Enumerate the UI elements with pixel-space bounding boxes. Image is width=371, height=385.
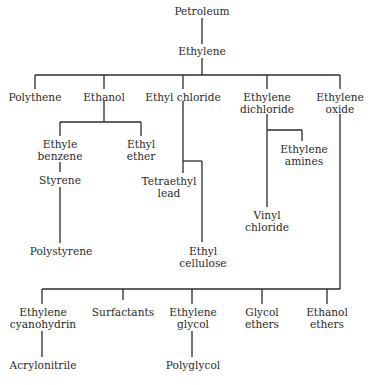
node-glycol-ethers: Glycol ethers [245, 306, 279, 330]
node-ethylene: Ethylene [178, 45, 226, 57]
node-ethylene-glycol: Ethylene glycol [169, 306, 217, 330]
node-styrene: Styrene [39, 174, 81, 186]
node-label: Ethyl chloride [145, 91, 221, 103]
node-label-line1: Ethylene [240, 91, 294, 103]
node-label: Polythene [9, 91, 62, 103]
node-label-line2: amines [280, 155, 328, 167]
node-label-line2: cellulose [179, 257, 226, 269]
node-label-line2: chloride [245, 221, 289, 233]
node-label-line2: cyanohydrin [10, 318, 76, 330]
node-ethylene-dichloride: Ethylene dichloride [240, 91, 294, 115]
node-label: Surfactants [92, 306, 154, 318]
node-polythene: Polythene [9, 91, 62, 103]
node-ethanol-ethers: Ethanol ethers [306, 306, 348, 330]
node-ethylene-cyanohydrin: Ethylene cyanohydrin [10, 306, 76, 330]
node-label: Polyglycol [166, 359, 220, 371]
node-polystyrene: Polystyrene [30, 245, 93, 257]
node-label-line1: Ethyl [179, 245, 226, 257]
node-label-line1: Vinyl [245, 209, 289, 221]
node-label: Ethanol [83, 91, 125, 103]
node-label-line1: Ethylene [280, 143, 328, 155]
node-label-line1: Ethylene [169, 306, 217, 318]
node-label-line2: lead [142, 187, 197, 199]
node-label-line1: Ethyl [127, 138, 156, 150]
node-label: Petroleum [174, 5, 229, 17]
node-ethyl-ether: Ethyl ether [127, 138, 156, 162]
node-label-line2: ether [127, 150, 156, 162]
node-label-line2: ethers [306, 318, 348, 330]
node-ethyle-benzene: Ethyle benzene [38, 138, 83, 162]
node-ethylene-oxide: Ethylene oxide [316, 91, 364, 115]
node-label-line1: Ethylene [10, 306, 76, 318]
node-ethylene-amines: Ethylene amines [280, 143, 328, 167]
node-label-line1: Ethylene [316, 91, 364, 103]
node-label-line2: dichloride [240, 103, 294, 115]
node-label-line2: oxide [316, 103, 364, 115]
node-label-line1: Tetraethyl [142, 175, 197, 187]
node-polyglycol: Polyglycol [166, 359, 220, 371]
node-label: Styrene [39, 174, 81, 186]
node-ethyl-cellulose: Ethyl cellulose [179, 245, 226, 269]
node-acrylonitrile: Acrylonitrile [10, 359, 77, 371]
node-vinyl-chloride: Vinyl chloride [245, 209, 289, 233]
node-surfactants: Surfactants [92, 306, 154, 318]
node-label-line1: Glycol [245, 306, 279, 318]
node-label: Acrylonitrile [10, 359, 77, 371]
node-label-line2: glycol [169, 318, 217, 330]
node-label-line2: benzene [38, 150, 83, 162]
node-label-line1: Ethyle [38, 138, 83, 150]
node-label-line1: Ethanol [306, 306, 348, 318]
node-label: Polystyrene [30, 245, 93, 257]
figure-caption-cropped [60, 378, 360, 385]
node-petroleum: Petroleum [174, 5, 229, 17]
node-tetraethyl-lead: Tetraethyl lead [142, 175, 197, 199]
node-ethanol: Ethanol [83, 91, 125, 103]
node-label-line2: ethers [245, 318, 279, 330]
node-ethyl-chloride: Ethyl chloride [145, 91, 221, 103]
ethylene-derivatives-tree: Petroleum Ethylene Polythene Ethanol Eth… [0, 0, 371, 385]
node-label: Ethylene [178, 45, 226, 57]
